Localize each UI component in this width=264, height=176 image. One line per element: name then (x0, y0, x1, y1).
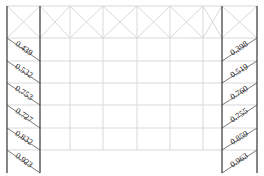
right-brace-ratio: 0.859 (228, 128, 250, 147)
frame-diagram: 0.4390.5320.7530.7270.8320.9230.3980.519… (0, 0, 264, 176)
right-brace-ratio: 0.519 (228, 61, 250, 80)
grid-lines (7, 6, 257, 150)
columns (7, 6, 257, 173)
right-brace-ratio: 0.963 (228, 151, 249, 170)
right-brace-ratio: 0.760 (228, 83, 250, 102)
right-brace-ratio: 0.755 (228, 106, 249, 125)
top-x-braces (7, 6, 257, 38)
right-brace-ratio: 0.398 (228, 39, 249, 58)
